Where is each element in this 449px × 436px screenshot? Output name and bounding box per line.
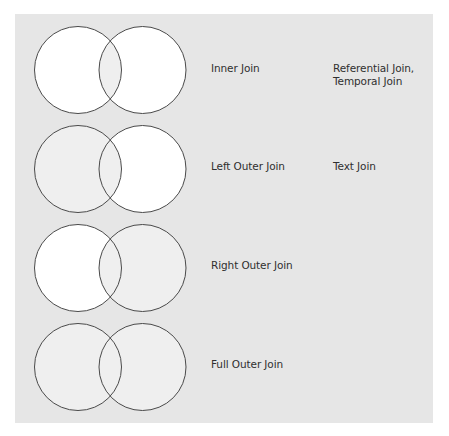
venn-inner-join [35,27,187,114]
venn-full-outer-join [35,324,187,411]
label-inner-join: Inner Join [211,62,260,75]
label-left-outer-join-related: Text Join [333,160,376,173]
label-full-outer-join: Full Outer Join [211,358,283,371]
venn-right-outer-join [35,225,187,312]
label-left-outer-join: Left Outer Join [211,160,285,173]
venn-left-outer-join [35,126,187,213]
label-right-outer-join: Right Outer Join [211,259,293,272]
label-inner-join-related: Referential Join, Temporal Join [333,62,414,88]
